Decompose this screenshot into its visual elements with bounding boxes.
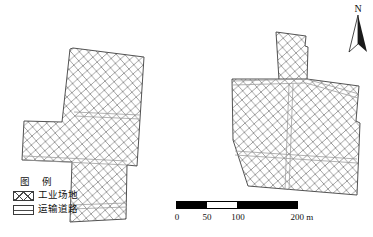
legend: 图 例 工业场地 运输道路 — [13, 176, 105, 216]
scale-bar: 0 50 100 200 m — [176, 201, 306, 225]
right-site-polygon — [232, 79, 360, 195]
north-arrow: N — [347, 3, 369, 58]
north-arrow-icon — [347, 14, 369, 54]
scale-tick-50: 50 — [203, 211, 212, 223]
scale-tick-100: 100 — [231, 211, 245, 223]
north-arrow-label: N — [347, 3, 369, 14]
scale-bar-ticks: 0 50 100 200 m — [176, 211, 306, 225]
legend-item-industrial-site: 工业场地 — [13, 189, 105, 202]
legend-label-transport-road: 运输道路 — [38, 204, 78, 215]
scale-seg-50-100 — [207, 202, 237, 208]
crosshatch-swatch — [13, 191, 34, 201]
right-site-top-extension — [276, 32, 308, 81]
legend-title: 图 例 — [13, 176, 105, 188]
scale-bar-graphic — [176, 201, 298, 209]
scale-seg-0-50 — [177, 202, 207, 208]
scale-tick-0: 0 — [175, 211, 180, 223]
road-swatch — [13, 205, 34, 215]
scale-tick-200: 200 m — [291, 211, 314, 223]
legend-item-transport-road: 运输道路 — [13, 203, 105, 216]
right-industrial-site[interactable] — [232, 32, 360, 195]
scale-seg-100-200 — [237, 202, 297, 208]
legend-label-industrial-site: 工业场地 — [38, 190, 78, 201]
